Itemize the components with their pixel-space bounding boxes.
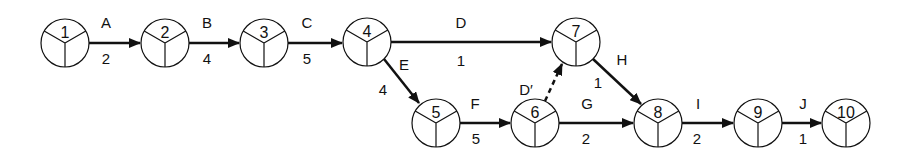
activity-G-duration: 2 [582,130,590,147]
activity-B-name: B [202,14,212,31]
activity-A-duration: 2 [102,50,110,67]
node-5-number: 5 [432,104,441,121]
activity-E-name: E [399,56,409,73]
activity-D-duration: 1 [457,52,465,69]
activity-F-duration: 5 [472,130,480,147]
activity-Dprime-name: D′ [519,81,533,98]
activity-E-duration: 4 [379,81,387,98]
activity-C-duration: 5 [303,50,311,67]
activity-D-name: D [456,14,467,31]
node-6-number: 6 [531,104,540,121]
activity-I-name: I [696,95,700,112]
activity-H-name: H [617,51,628,68]
network-diagram: 1 2 3 4 7 5 6 8 9 10 A B C D E F D′ G H … [0,0,912,157]
node-10-number: 10 [837,104,855,121]
activity-H-duration: 1 [594,74,602,91]
node-3-number: 3 [260,24,269,41]
activity-F-name: F [470,95,479,112]
activity-I-duration: 2 [693,130,701,147]
activity-J-name: J [799,95,807,112]
node-7-number: 7 [572,23,581,40]
node-8-number: 8 [654,104,663,121]
activity-A-name: A [101,14,111,31]
node-2-number: 2 [161,24,170,41]
node-9-number: 9 [754,104,763,121]
node-4-number: 4 [363,23,372,40]
activity-J-duration: 1 [799,130,807,147]
activity-B-duration: 4 [203,50,211,67]
activity-G-name: G [581,95,593,112]
node-1-number: 1 [61,24,70,41]
activity-C-name: C [302,14,313,31]
arrow-Dprime-dummy [545,64,562,101]
